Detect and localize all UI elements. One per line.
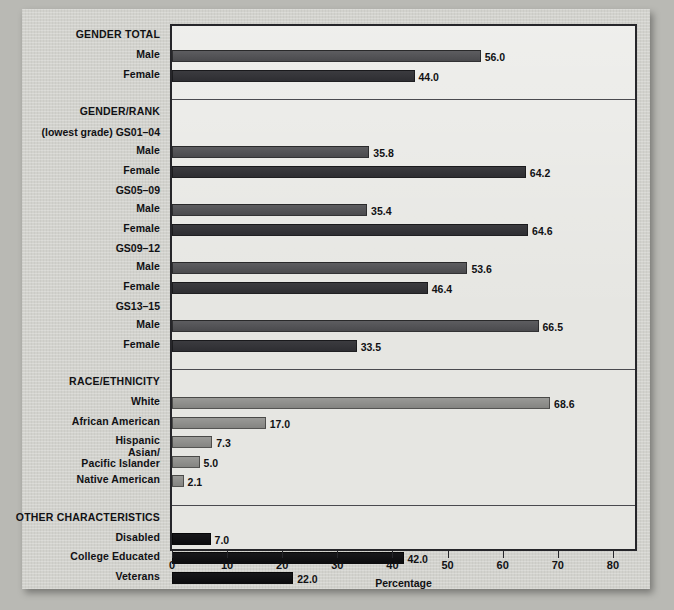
bar-value-label: 56.0 xyxy=(485,51,505,63)
section-heading-race-ethnicity: RACE/ETHNICITY xyxy=(69,376,160,387)
bar-value-label: 33.5 xyxy=(361,341,381,353)
row-label: Male xyxy=(136,261,160,272)
row-label: Female xyxy=(123,281,160,292)
bar-value-label: 35.4 xyxy=(371,205,391,217)
bar-male[interactable] xyxy=(172,146,369,158)
group-label-gs13-15: GS13–15 xyxy=(116,301,160,312)
row-label: College Educated xyxy=(70,551,160,562)
x-axis-title: Percentage xyxy=(170,577,637,589)
x-axis-tick xyxy=(392,551,393,558)
x-axis-tick xyxy=(172,551,173,558)
x-axis-tick-label: 50 xyxy=(441,559,453,571)
row-label: Male xyxy=(136,145,160,156)
bar-african-american[interactable] xyxy=(172,417,266,429)
bar-female[interactable] xyxy=(172,70,415,82)
section-heading-gender-rank: GENDER/RANK xyxy=(80,106,160,117)
bar-value-label: 68.6 xyxy=(554,398,574,410)
row-label: Asian/Pacific Islander xyxy=(81,447,160,470)
bar-asian-pacific-islander[interactable] xyxy=(172,456,200,468)
bar-value-label: 17.0 xyxy=(270,418,290,430)
bar-female[interactable] xyxy=(172,224,528,236)
section-separator-2 xyxy=(172,369,635,370)
bar-male[interactable] xyxy=(172,320,539,332)
row-label: Native American xyxy=(77,474,160,485)
row-label: Disabled xyxy=(115,532,160,543)
row-label: Veterans xyxy=(115,571,160,582)
bar-female[interactable] xyxy=(172,282,428,294)
bar-female[interactable] xyxy=(172,340,357,352)
section-separator-1 xyxy=(172,99,635,100)
row-label: Female xyxy=(123,165,160,176)
bar-native-american[interactable] xyxy=(172,475,184,487)
x-axis: Percentage 01020304050607080 xyxy=(170,551,637,591)
bar-male[interactable] xyxy=(172,50,481,62)
row-label: African American xyxy=(72,416,160,427)
bar-value-label: 2.1 xyxy=(188,476,203,488)
row-label: Female xyxy=(123,223,160,234)
x-axis-tick-label: 70 xyxy=(552,559,564,571)
bar-male[interactable] xyxy=(172,262,467,274)
bar-male[interactable] xyxy=(172,204,367,216)
bar-value-label: 64.6 xyxy=(532,225,552,237)
group-label-lowest-grade-gs01-04: (lowest grade) GS01–04 xyxy=(42,127,160,138)
row-label: White xyxy=(131,396,160,407)
section-heading-other-characteristics: OTHER CHARACTERISTICS xyxy=(16,512,160,523)
x-axis-tick-label: 40 xyxy=(386,559,398,571)
row-label: Male xyxy=(136,203,160,214)
bar-value-label: 7.3 xyxy=(216,437,231,449)
x-axis-tick xyxy=(558,551,559,558)
row-label: Male xyxy=(136,319,160,330)
bar-value-label: 53.6 xyxy=(471,263,491,275)
figure-root: GENDER TOTALMaleFemaleGENDER/RANK(lowest… xyxy=(0,0,674,610)
plot-area: 56.044.035.864.235.464.653.646.466.533.5… xyxy=(170,24,637,551)
row-label: Female xyxy=(123,339,160,350)
group-label-gs09-12: GS09–12 xyxy=(116,243,160,254)
bar-value-label: 44.0 xyxy=(419,71,439,83)
row-label-column: GENDER TOTALMaleFemaleGENDER/RANK(lowest… xyxy=(0,24,166,551)
x-axis-tick xyxy=(613,551,614,558)
x-axis-tick xyxy=(448,551,449,558)
bar-value-label: 5.0 xyxy=(204,457,219,469)
row-label: Female xyxy=(123,69,160,80)
x-axis-tick xyxy=(227,551,228,558)
x-axis-tick-label: 30 xyxy=(331,559,343,571)
bar-disabled[interactable] xyxy=(172,533,211,545)
section-separator-3 xyxy=(172,505,635,506)
row-label: Male xyxy=(136,49,160,60)
row-label: Hispanic xyxy=(115,435,160,446)
bar-female[interactable] xyxy=(172,166,526,178)
bar-value-label: 7.0 xyxy=(215,534,230,546)
x-axis-tick-label: 20 xyxy=(276,559,288,571)
group-label-gs05-09: GS05–09 xyxy=(116,185,160,196)
bar-white[interactable] xyxy=(172,397,550,409)
x-axis-tick-label: 10 xyxy=(221,559,233,571)
bar-value-label: 46.4 xyxy=(432,283,452,295)
x-axis-tick-label: 80 xyxy=(607,559,619,571)
x-axis-tick-label: 0 xyxy=(169,559,175,571)
bar-value-label: 64.2 xyxy=(530,167,550,179)
bar-value-label: 66.5 xyxy=(543,321,563,333)
x-axis-tick xyxy=(503,551,504,558)
x-axis-tick xyxy=(337,551,338,558)
bar-value-label: 35.8 xyxy=(373,147,393,159)
section-heading-gender-total: GENDER TOTAL xyxy=(76,29,160,40)
bar-hispanic[interactable] xyxy=(172,436,212,448)
x-axis-tick-label: 60 xyxy=(497,559,509,571)
x-axis-tick xyxy=(282,551,283,558)
